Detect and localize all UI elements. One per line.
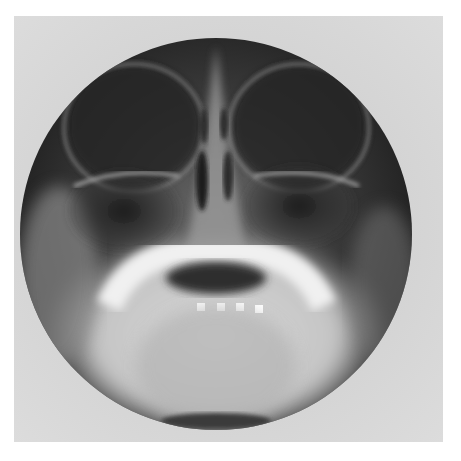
- xray-skull-image: [14, 16, 443, 442]
- radiograph-film: [14, 16, 443, 442]
